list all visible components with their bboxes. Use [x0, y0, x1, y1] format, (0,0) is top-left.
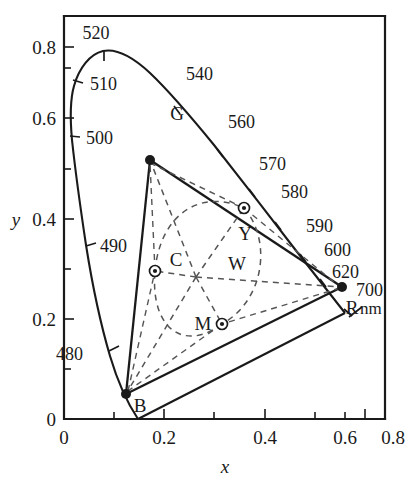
point-label-y: Y: [238, 223, 252, 244]
cmy-arc-m-c: [155, 271, 222, 336]
wavelength-label-700: 700: [356, 280, 383, 300]
purple-line: [138, 313, 345, 419]
y-tick-label-0.4: 0.4: [32, 209, 56, 230]
point-label-b: B: [134, 395, 147, 416]
x-axis-title: x: [220, 456, 230, 477]
point-label-w: W: [228, 253, 246, 274]
wavelength-label-620: 620: [332, 262, 359, 282]
x-axis-ticks: [64, 409, 385, 419]
wavelength-label-540: 540: [186, 64, 213, 84]
wavelength-label-600: 600: [324, 240, 351, 260]
x-tick-label-0: 0: [59, 427, 69, 448]
y-tick-labels: 0 0.2 0.4 0.6 0.8: [32, 37, 56, 430]
wavelength-label-500: 500: [86, 128, 113, 148]
y-tick-label-0: 0: [47, 409, 57, 430]
locus-tick-490: [86, 243, 96, 246]
spectral-locus: [71, 50, 345, 419]
dashed-edge-c-g: [150, 163, 155, 271]
wavelength-label-520: 520: [83, 23, 110, 43]
y-tick-label-0.6: 0.6: [32, 108, 56, 129]
rgb-gamut-triangle: [126, 160, 342, 394]
x-tick-label-0.2: 0.2: [152, 427, 176, 448]
dashed-edge-r-m: [222, 288, 340, 324]
x-tick-label-0.8: 0.8: [381, 427, 405, 448]
point-marker-c: [150, 266, 161, 277]
dashed-edge-m-b: [128, 324, 222, 391]
white-point-spokes: [126, 160, 342, 394]
gamut-edge-b-r: [126, 287, 342, 394]
wavelength-label-590: 590: [306, 216, 333, 236]
spectral-locus-curve: [71, 50, 345, 419]
wavelength-label-510: 510: [90, 74, 117, 94]
wavelength-label-490: 490: [100, 236, 127, 256]
point-marker-r: [337, 282, 347, 292]
point-marker-b: [121, 389, 131, 399]
wavelength-label-570: 570: [259, 154, 286, 174]
x-tick-label-0.6: 0.6: [333, 427, 357, 448]
point-label-r: R: [346, 297, 359, 318]
locus-tick-500: [70, 136, 80, 137]
point-marker-g: [145, 155, 155, 165]
dashed-gamut-outline: [128, 163, 340, 391]
x-tick-label-0.4: 0.4: [253, 427, 277, 448]
locus-tick-560: [217, 149, 223, 157]
locus-tick-480: [109, 346, 119, 351]
diagram-canvas: 520 510 500 490 480 540 560 570 580 590 …: [0, 0, 409, 484]
wavelength-label-580: 580: [281, 182, 308, 202]
point-marker-m: [217, 319, 228, 330]
unit-label-nm: nm: [360, 299, 382, 318]
point-label-g: G: [170, 103, 184, 124]
point-label-c: C: [170, 249, 183, 270]
wavelength-labels: 520 510 500 490 480 540 560 570 580 590 …: [56, 23, 383, 364]
wavelength-label-480: 480: [56, 344, 83, 364]
dashed-edge-g-y: [150, 163, 244, 208]
point-label-m: M: [195, 313, 212, 334]
wavelength-label-560: 560: [228, 112, 255, 132]
y-tick-label-0.8: 0.8: [32, 37, 56, 58]
point-marker-y: [239, 203, 250, 214]
y-tick-label-0.2: 0.2: [32, 309, 56, 330]
gamut-edge-b-g: [126, 160, 150, 394]
y-axis-title: y: [10, 209, 21, 230]
chromaticity-diagram-figure: 520 510 500 490 480 540 560 570 580 590 …: [0, 0, 409, 484]
x-tick-labels: 0 0.2 0.4 0.6 0.8: [59, 427, 405, 448]
locus-tick-570: [249, 189, 255, 197]
